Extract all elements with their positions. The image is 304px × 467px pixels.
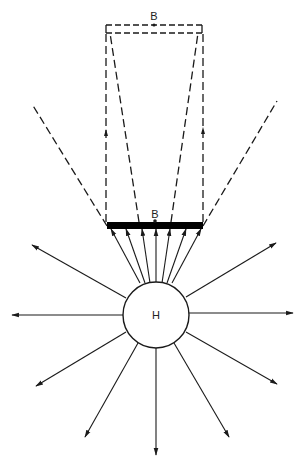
converging-arrow [142, 229, 150, 283]
inner-dashed-ray [171, 33, 198, 222]
inner-dashed-ray [110, 33, 139, 222]
radial-arrow [32, 245, 126, 298]
lens-bar-rect [107, 222, 203, 229]
radial-arrow [186, 243, 276, 297]
outer-dashed-ray [32, 104, 107, 226]
converging-arrow [162, 229, 170, 283]
radial-arrow [85, 343, 138, 437]
diagram-canvas: B B H [0, 0, 304, 467]
lens-bar [107, 219, 203, 229]
arrow-up-icon [201, 127, 205, 134]
dashed-rays [32, 33, 277, 226]
radial-arrow [36, 332, 126, 386]
radial-arrow [186, 332, 277, 384]
lens-bar-label: B [151, 208, 158, 220]
image-plane-label: B [150, 10, 157, 22]
radial-arrow [174, 343, 229, 437]
optics-diagram: B B H [0, 0, 304, 467]
arrow-up-icon [104, 129, 108, 136]
outer-dashed-ray [203, 101, 277, 226]
image-plane [106, 23, 202, 33]
radial-arrows [12, 243, 293, 455]
converging-arrows [111, 229, 201, 283]
image-plane-point-b [152, 23, 155, 26]
center-body-label: H [152, 309, 160, 321]
